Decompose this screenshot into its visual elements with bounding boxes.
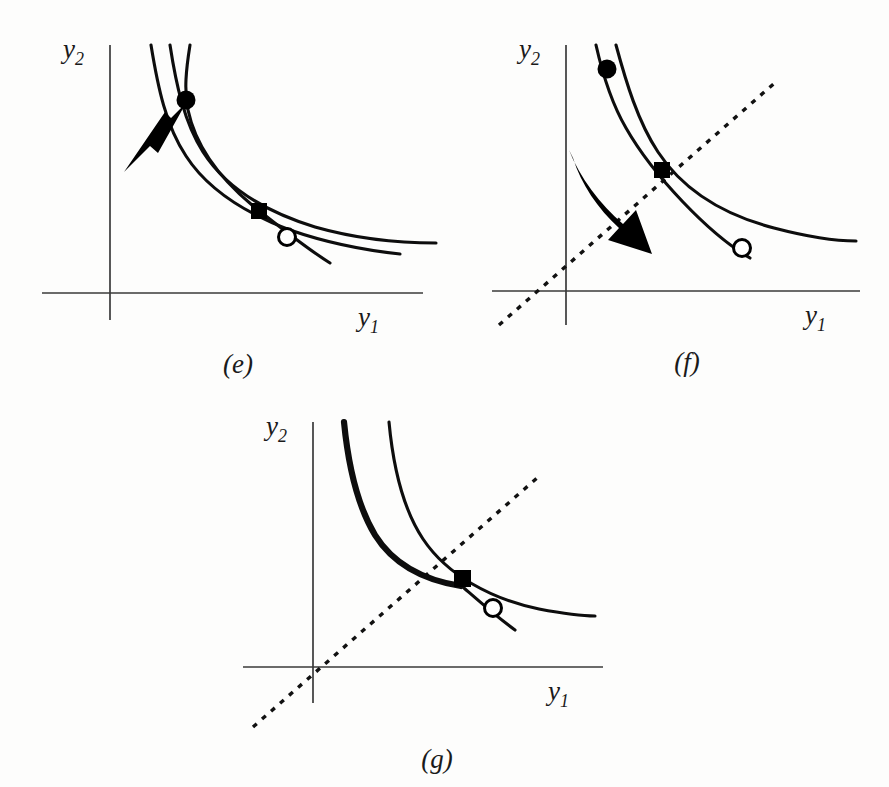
open-circle-marker (485, 600, 502, 617)
x-axis-label: y1 (545, 676, 569, 711)
y-axis-label: y2 (263, 411, 287, 446)
y-axis-label: y2 (516, 34, 540, 69)
panel-e-plot: y2 y1 (e) (0, 0, 460, 395)
figure-root: y2 y1 (e) y2 (0, 0, 889, 787)
filled-circle-marker (177, 91, 196, 110)
panel-f-plot: y2 y1 (f) (440, 0, 889, 395)
panel-e: y2 y1 (e) (0, 0, 460, 395)
filled-square-marker (654, 162, 670, 178)
indifference-curve-middle (170, 45, 436, 243)
filled-square-marker (251, 203, 267, 219)
panel-f: y2 y1 (f) (440, 0, 889, 395)
open-circle-marker (279, 229, 296, 246)
panel-caption-g: (g) (421, 744, 452, 774)
panel-caption-e: (e) (223, 349, 253, 379)
panel-g: y2 y1 (g) (215, 385, 685, 787)
panel-g-plot: y2 y1 (g) (215, 385, 685, 787)
panel-caption-f: (f) (674, 347, 699, 377)
x-axis-label: y1 (355, 302, 379, 337)
direction-arrow-curved-down-right (569, 150, 652, 254)
indifference-curve-flat (616, 45, 856, 241)
indifference-curve-inner (186, 45, 330, 263)
filled-circle-marker (598, 60, 617, 79)
x-axis-label: y1 (802, 300, 826, 335)
open-circle-marker (734, 240, 751, 257)
filled-square-marker (454, 570, 471, 587)
y-axis-label: y2 (60, 34, 84, 69)
